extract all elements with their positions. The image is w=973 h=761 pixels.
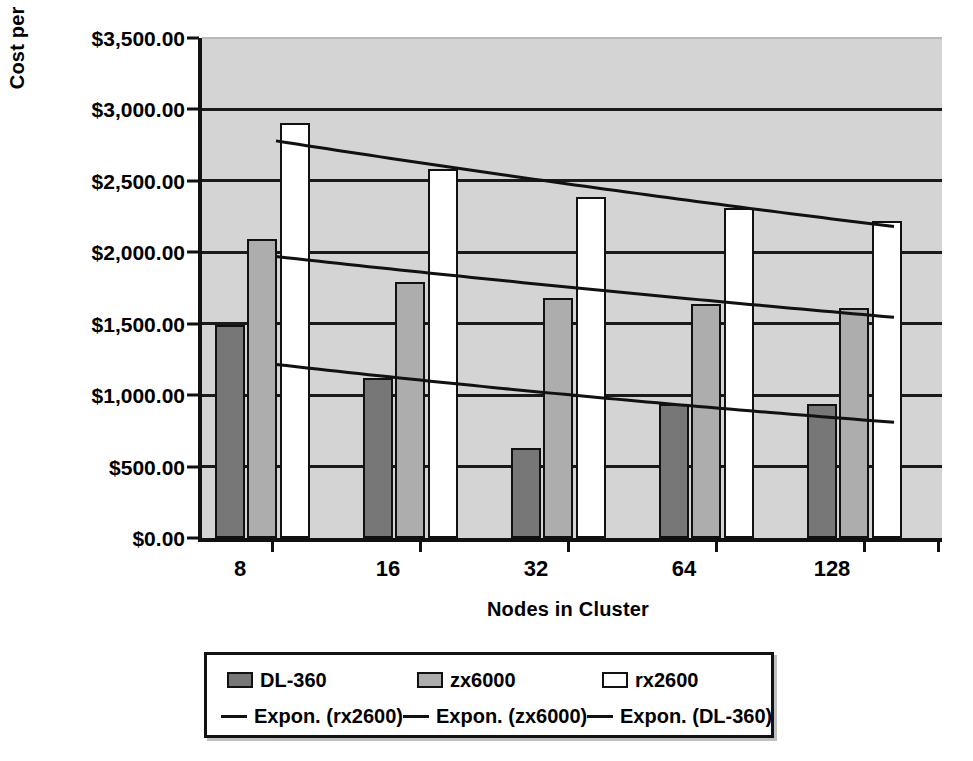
x-axis-tick-mark [419, 538, 422, 552]
y-axis-tick-label: $0.00 [25, 528, 185, 549]
x-axis-tick-label: 128 [814, 556, 851, 582]
legend-item-label: rx2600 [635, 669, 698, 692]
legend-item-label: DL-360 [260, 669, 327, 692]
legend-line-icon [403, 715, 429, 718]
chart-legend: DL-360zx6000rx2600 Expon. (rx2600)Expon.… [204, 652, 774, 738]
x-axis-tick-mark [715, 538, 718, 552]
x-axis-title: Nodes in Cluster [198, 598, 938, 621]
x-axis-tick-label: 32 [524, 556, 548, 582]
legend-swatch-icon [227, 672, 253, 688]
chart-figure: Cost per GFLOP $0.00$500.00$1,000.00$1,5… [0, 0, 973, 761]
legend-item-label: Expon. (zx6000) [436, 705, 587, 728]
y-axis-tick-label: $1,000.00 [25, 385, 185, 406]
legend-row-series: DL-360zx6000rx2600 [207, 663, 771, 697]
legend-item-label: zx6000 [450, 669, 516, 692]
trendline [276, 364, 894, 422]
plot-inner [202, 38, 942, 538]
legend-item-label: Expon. (DL-360) [620, 705, 772, 728]
legend-item[interactable]: Expon. (rx2600) [221, 705, 403, 728]
y-axis-tick-label: $3,000.00 [25, 99, 185, 120]
x-axis-tick-mark [863, 538, 866, 552]
legend-item-label: Expon. (rx2600) [254, 705, 403, 728]
x-axis-tick-label: 64 [672, 556, 696, 582]
legend-line-icon [587, 715, 613, 718]
legend-item[interactable]: Expon. (DL-360) [587, 705, 772, 728]
trendline-overlay [202, 38, 942, 538]
plot-area [198, 38, 942, 542]
y-axis-tick-label: $3,500.00 [25, 28, 185, 49]
y-axis-tick-label: $500.00 [25, 456, 185, 477]
legend-item[interactable]: rx2600 [602, 669, 698, 692]
x-axis-tick-mark [937, 538, 940, 552]
x-axis-tick-label: 8 [234, 556, 246, 582]
legend-row-trendlines: Expon. (rx2600)Expon. (zx6000)Expon. (DL… [207, 699, 771, 733]
legend-item[interactable]: DL-360 [227, 669, 327, 692]
legend-line-icon [221, 715, 247, 718]
trendline [276, 141, 894, 227]
trendline [276, 257, 894, 318]
legend-item[interactable]: Expon. (zx6000) [403, 705, 587, 728]
legend-swatch-icon [602, 672, 628, 688]
y-axis-tick-labels: $0.00$500.00$1,000.00$1,500.00$2,000.00$… [25, 0, 185, 761]
y-axis-tick-label: $2,500.00 [25, 170, 185, 191]
legend-swatch-icon [417, 672, 443, 688]
legend-item[interactable]: zx6000 [417, 669, 516, 692]
x-axis-tick-mark [271, 538, 274, 552]
x-axis-tick-mark [567, 538, 570, 552]
x-axis-tick-labels: 8163264128 [198, 538, 942, 598]
x-axis-title-label: Nodes in Cluster [487, 598, 649, 620]
y-axis-tick-label: $1,500.00 [25, 313, 185, 334]
x-axis-tick-label: 16 [376, 556, 400, 582]
y-axis-tick-label: $2,000.00 [25, 242, 185, 263]
